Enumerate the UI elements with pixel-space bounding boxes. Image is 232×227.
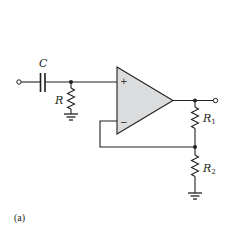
feedback-wire [100, 121, 195, 147]
capacitor-c [41, 73, 46, 92]
figure-caption: (a) [14, 212, 25, 224]
resistor-r1 [192, 107, 199, 129]
output-terminal [213, 98, 217, 102]
resistor-r1-label: R1 [202, 112, 216, 126]
resistor-r [68, 88, 75, 109]
input-terminal [17, 80, 21, 84]
opamp-plus-sign: + [120, 76, 128, 86]
resistor-r-label: R [54, 94, 63, 107]
opamp-minus-sign: − [120, 117, 128, 127]
ground-icon-r2 [188, 193, 202, 199]
resistor-r2-label: R2 [202, 162, 216, 176]
ground-icon [64, 114, 78, 120]
capacitor-label: C [39, 57, 48, 70]
circuit-diagram: C R + − R1 R2 (a) [0, 0, 232, 227]
resistor-r2 [192, 155, 199, 177]
